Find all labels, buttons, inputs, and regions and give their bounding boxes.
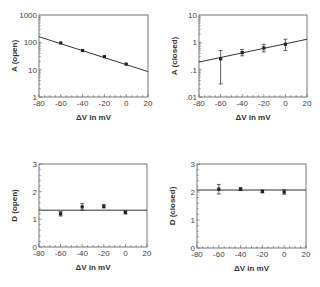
y-tick-label: 1: [191, 216, 196, 225]
y-tick-label: 2: [33, 188, 38, 197]
x-tick-label: 0: [283, 99, 288, 108]
data-point: [103, 55, 106, 58]
x-tick-label: -60: [55, 249, 67, 258]
data-point: [284, 43, 287, 46]
x-tick-label: -20: [258, 99, 270, 108]
y-tick-label: 0: [191, 244, 196, 253]
x-tick-label: 20: [143, 249, 152, 258]
data-point: [241, 51, 244, 54]
data-point: [59, 212, 62, 215]
y-axis-label: D (closed): [168, 186, 177, 225]
x-axis-label: ΔV in mV: [75, 263, 111, 272]
y-axis-label: A (closed): [170, 36, 179, 75]
y-tick-label: 1000: [19, 11, 37, 20]
data-point: [219, 57, 222, 60]
x-tick-label: -40: [235, 250, 247, 259]
data-point: [125, 62, 128, 65]
x-tick-label: 20: [144, 99, 153, 108]
y-tick-label: .1: [190, 66, 197, 75]
x-tick-label: -40: [77, 99, 89, 108]
y-tick-label: .01: [186, 93, 198, 102]
chart-panel-top-right: -80-60-40-20020.01.1110ΔV in mVA (closed…: [170, 11, 312, 122]
chart-panel-bottom-right: -80-60-40-200200123ΔV in mVD (closed): [168, 160, 311, 273]
plot-frame: [199, 15, 307, 97]
figure-four-panel-plots: -80-60-40-200201101001000ΔV in mVA (open…: [0, 0, 320, 287]
x-tick-label: 20: [303, 99, 312, 108]
data-point: [217, 188, 220, 191]
y-tick-label: 3: [191, 160, 196, 169]
data-point: [124, 211, 127, 214]
y-tick-label: 2: [191, 188, 196, 197]
y-tick-label: 1: [33, 215, 38, 224]
x-tick-label: -20: [98, 249, 110, 258]
y-tick-label: 10: [188, 11, 197, 20]
y-tick-label: 1: [33, 93, 38, 102]
data-point: [283, 190, 286, 193]
y-axis-label: D (open): [10, 189, 19, 222]
y-axis-label: A (open): [10, 40, 19, 72]
y-tick-label: 1: [193, 38, 198, 47]
x-tick-label: 0: [123, 249, 128, 258]
chart-panel-bottom-left: -80-60-40-200200123ΔV in mVD (open): [10, 160, 152, 272]
x-axis-label: ΔV in mV: [76, 113, 112, 122]
data-point: [261, 190, 264, 193]
x-tick-label: -20: [257, 250, 269, 259]
data-point: [81, 49, 84, 52]
x-axis-label: ΔV in mV: [235, 113, 271, 122]
data-point: [81, 205, 84, 208]
x-tick-label: -20: [99, 99, 111, 108]
x-axis-label: ΔV in mV: [234, 264, 270, 273]
plot-frame: [197, 164, 306, 248]
x-tick-label: -60: [55, 99, 67, 108]
plot-frame: [39, 164, 147, 247]
data-point: [59, 41, 62, 44]
x-tick-label: 0: [124, 99, 129, 108]
y-tick-label: 0: [33, 243, 38, 252]
x-tick-label: 20: [302, 250, 311, 259]
y-tick-label: 10: [28, 66, 37, 75]
data-point: [239, 188, 242, 191]
fit-line: [199, 39, 307, 62]
data-point: [102, 205, 105, 208]
data-point: [262, 46, 265, 49]
y-tick-label: 3: [33, 160, 38, 169]
plot-frame: [39, 15, 148, 97]
y-tick-label: 100: [24, 38, 38, 47]
x-tick-label: -40: [76, 249, 88, 258]
x-tick-label: -60: [215, 99, 227, 108]
chart-panel-top-left: -80-60-40-200201101001000ΔV in mVA (open…: [10, 11, 153, 122]
x-tick-label: -40: [236, 99, 248, 108]
x-tick-label: 0: [282, 250, 287, 259]
x-tick-label: -60: [213, 250, 225, 259]
fit-line: [39, 37, 148, 72]
